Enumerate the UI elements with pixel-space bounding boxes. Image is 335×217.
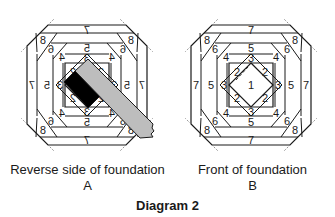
label-7: 7: [29, 79, 35, 91]
label-2: 2: [234, 66, 240, 78]
figure-title: Diagram 2: [0, 198, 335, 213]
label-5: 5: [248, 42, 254, 54]
label-7: 7: [303, 79, 309, 91]
label-5: 5: [288, 79, 294, 91]
label-3: 3: [275, 79, 281, 91]
label-6: 6: [120, 43, 126, 55]
trim-mark: [21, 118, 27, 124]
trim-mark: [48, 19, 54, 25]
trim-mark: [21, 46, 27, 52]
label-6: 6: [212, 115, 218, 127]
label-6: 6: [284, 43, 290, 55]
label-6: 6: [212, 43, 218, 55]
label-4: 4: [223, 51, 229, 63]
label-7: 7: [84, 134, 90, 146]
label-5: 5: [248, 116, 254, 128]
label-8: 8: [292, 34, 298, 46]
label-2: 2: [234, 92, 240, 104]
label-4: 4: [273, 51, 279, 63]
trim-mark: [311, 118, 317, 124]
label-4: 4: [273, 107, 279, 119]
label-7: 7: [248, 24, 254, 36]
label-4: 4: [59, 107, 65, 119]
label-4: 4: [223, 107, 229, 119]
label-7: 7: [248, 134, 254, 146]
label-2: 2: [262, 92, 268, 104]
label-7: 7: [139, 79, 145, 91]
label-5: 5: [208, 79, 214, 91]
label-4: 4: [59, 51, 65, 63]
trim-mark: [120, 19, 126, 25]
label-8: 8: [40, 124, 46, 136]
panel-a-caption: Reverse side of foundation: [0, 162, 175, 177]
trim-mark: [48, 145, 54, 151]
label-8: 8: [292, 124, 298, 136]
trim-mark: [185, 46, 191, 52]
label-2: 2: [262, 66, 268, 78]
label-6: 6: [48, 115, 54, 127]
label-5: 5: [84, 42, 90, 54]
label-5: 5: [84, 116, 90, 128]
label-3: 3: [57, 79, 63, 91]
panel-a-reverse-side: 12222333344445555666677778888: [21, 19, 154, 150]
trim-mark: [311, 46, 317, 52]
trim-mark: [212, 19, 218, 25]
label-6: 6: [284, 115, 290, 127]
label-4: 4: [109, 51, 115, 63]
label-5: 5: [124, 79, 130, 91]
trim-mark: [185, 118, 191, 124]
panel-b-front-side: 12222333344445555666677778888: [185, 19, 316, 150]
label-8: 8: [204, 124, 210, 136]
diagram-2: 12222333344445555666677778888 1222233334…: [0, 0, 335, 217]
trim-mark: [284, 19, 290, 25]
trim-mark: [212, 145, 218, 151]
panel-b-letter: B: [170, 178, 335, 193]
label-3: 3: [221, 79, 227, 91]
trim-mark: [147, 46, 153, 52]
label-5: 5: [44, 79, 50, 91]
label-8: 8: [40, 34, 46, 46]
label-7: 7: [193, 79, 199, 91]
label-6: 6: [48, 43, 54, 55]
label-7: 7: [84, 24, 90, 36]
label-1: 1: [248, 79, 254, 91]
label-8: 8: [128, 34, 134, 46]
panel-a-letter: A: [0, 178, 175, 193]
panel-b-caption: Front of foundation: [170, 162, 335, 177]
trim-mark: [120, 145, 126, 151]
label-8: 8: [204, 34, 210, 46]
trim-mark: [284, 145, 290, 151]
